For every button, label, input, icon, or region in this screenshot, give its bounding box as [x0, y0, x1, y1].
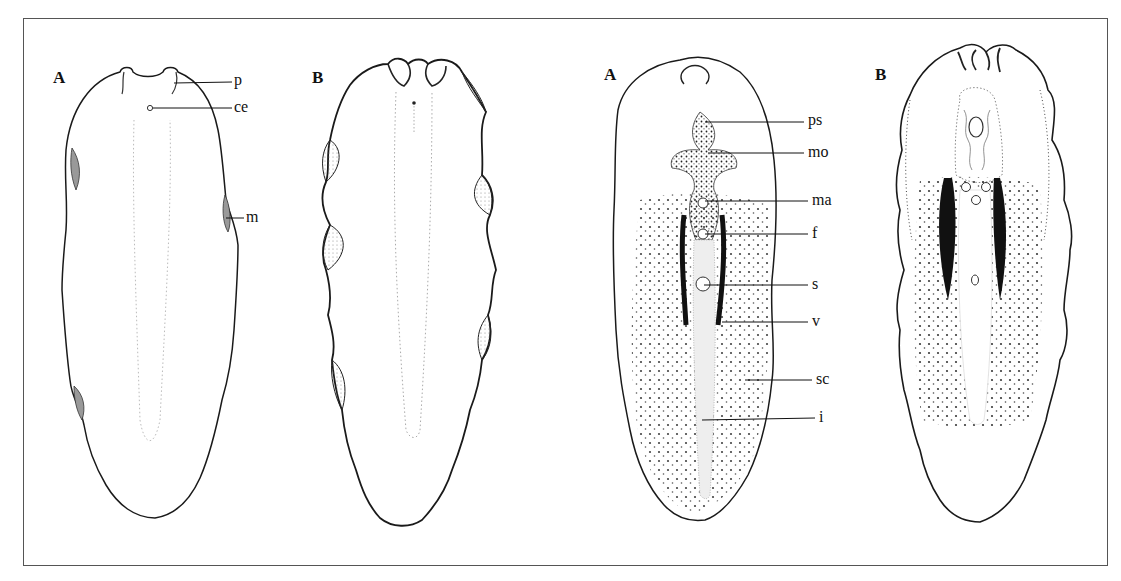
worm-left-B [323, 59, 496, 526]
panel-label-right-a: A [604, 65, 616, 85]
panel-label-left-a: A [53, 68, 65, 88]
label-sc: sc [816, 371, 829, 387]
panel-label-right-b: B [875, 65, 886, 85]
label-s: s [812, 276, 818, 292]
label-v: v [812, 313, 820, 329]
label-ma: ma [812, 192, 832, 208]
worm-right-B [896, 45, 1071, 522]
label-i: i [819, 409, 823, 425]
label-m: m [246, 209, 258, 225]
label-mo: mo [808, 144, 828, 160]
label-ps: ps [808, 112, 822, 128]
figure-drawing [0, 0, 1121, 581]
label-ce: ce [234, 99, 248, 115]
worm-left-A [62, 68, 244, 519]
label-f: f [812, 225, 817, 241]
worm-right-A [613, 57, 815, 520]
label-p: p [234, 72, 242, 88]
panel-label-left-b: B [312, 68, 323, 88]
